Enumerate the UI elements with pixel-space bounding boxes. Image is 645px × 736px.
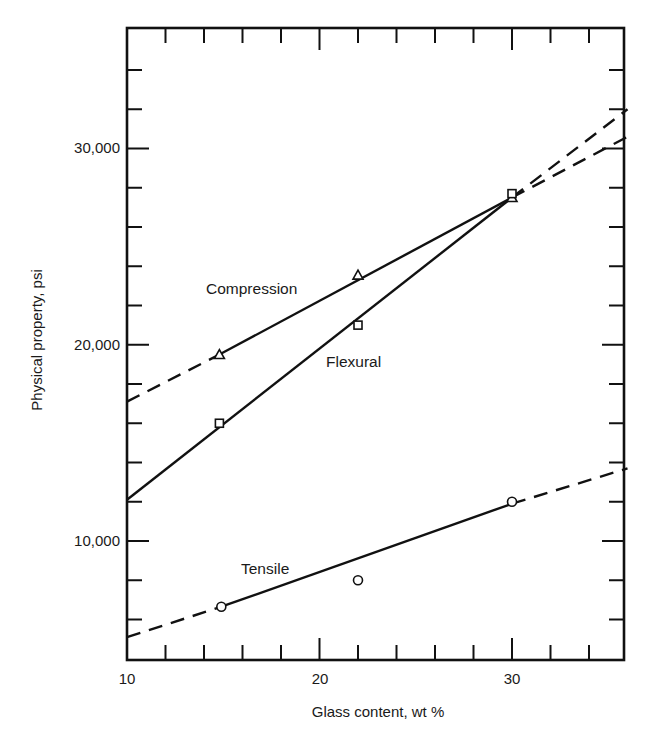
series-label-flexural: Flexural bbox=[326, 353, 381, 370]
tensile-extrapolation-high bbox=[512, 468, 628, 503]
plot-frame bbox=[127, 28, 624, 660]
x-tick-20: 20 bbox=[312, 670, 329, 687]
flexural-data-point bbox=[215, 419, 223, 427]
tensile-data-point bbox=[354, 576, 363, 585]
compression-data-point bbox=[214, 350, 224, 359]
series-label-compression: Compression bbox=[206, 280, 297, 297]
flexural-data-point bbox=[508, 190, 516, 198]
compression-data-point bbox=[353, 270, 363, 279]
compression-extrapolation-low bbox=[127, 355, 219, 402]
series-label-tensile: Tensile bbox=[241, 560, 289, 577]
x-axis-title: Glass content, wt % bbox=[312, 703, 445, 720]
tensile-data-point bbox=[508, 497, 517, 506]
tensile-extrapolation-low bbox=[127, 607, 221, 637]
flexural-data-point bbox=[354, 321, 362, 329]
y-tick-20000: 20,000 bbox=[74, 336, 120, 353]
flexural-extrapolation-high bbox=[512, 109, 628, 197]
tensile-fit-line bbox=[221, 504, 512, 607]
x-tick-30: 30 bbox=[504, 670, 521, 687]
x-tick-labels: 10 20 30 bbox=[119, 670, 521, 687]
series-lines bbox=[127, 109, 628, 637]
tensile-data-point bbox=[217, 602, 226, 611]
flexural-fit-line bbox=[127, 198, 512, 500]
series-markers bbox=[214, 190, 517, 612]
compression-fit-line bbox=[219, 198, 512, 355]
axis-ticks bbox=[127, 28, 624, 660]
y-tick-labels: 30,000 20,000 10,000 bbox=[74, 139, 120, 549]
y-axis-title: Physical property, psi bbox=[28, 269, 45, 410]
x-tick-10: 10 bbox=[119, 670, 136, 687]
chart-canvas: 10 20 30 30,000 20,000 10,000 Glass cont… bbox=[0, 0, 645, 736]
y-tick-30000: 30,000 bbox=[74, 139, 120, 156]
y-tick-10000: 10,000 bbox=[74, 532, 120, 549]
